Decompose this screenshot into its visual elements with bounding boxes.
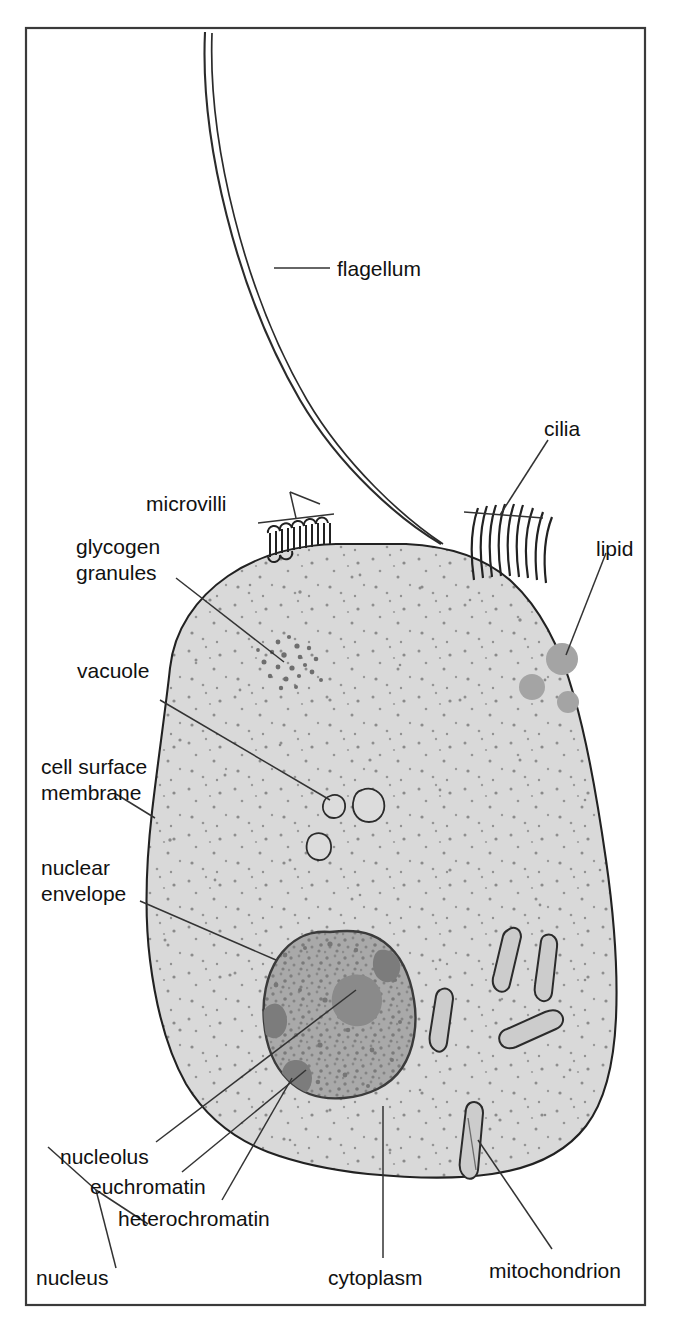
cell-body	[146, 544, 616, 1179]
label-flagellum: flagellum	[337, 257, 421, 280]
nucleolus	[332, 975, 382, 1027]
flagellum	[205, 32, 443, 544]
lipid-droplet	[519, 674, 545, 700]
label-vacuole: vacuole	[77, 659, 149, 682]
label-mitochondrion: mitochondrion	[489, 1259, 621, 1282]
label-cell-surface-membrane-line2: membrane	[41, 781, 141, 804]
label-lipid: lipid	[596, 537, 633, 560]
lipid-droplet	[546, 643, 578, 675]
label-nucleus: nucleus	[36, 1266, 108, 1289]
label-glycogen-granules-line1: glycogen	[76, 535, 160, 558]
leader-microvilli	[290, 492, 296, 518]
nucleus	[261, 931, 415, 1098]
lipid-droplet	[557, 691, 579, 713]
vacuole	[307, 833, 332, 860]
label-nuclear-envelope-line2: envelope	[41, 882, 126, 905]
label-glycogen-granules-line2: granules	[76, 561, 157, 584]
leader-lipid	[566, 553, 606, 655]
label-nucleolus: nucleolus	[60, 1145, 149, 1168]
label-nuclear-envelope-line1: nuclear	[41, 856, 110, 879]
label-euchromatin: euchromatin	[90, 1175, 206, 1198]
leader-microvilli-2	[290, 492, 320, 504]
label-microvilli: microvilli	[146, 492, 227, 515]
label-cilia: cilia	[544, 417, 580, 440]
cell-diagram-figure: flagellum cilia microvilli lipid glycoge…	[0, 0, 673, 1324]
leader-cilia	[500, 440, 548, 515]
label-cytoplasm: cytoplasm	[328, 1266, 423, 1289]
figure-caption	[30, 1308, 650, 1324]
vacuole	[353, 789, 384, 822]
label-cell-surface-membrane-line1: cell surface	[41, 755, 147, 778]
label-heterochromatin: heterochromatin	[118, 1207, 270, 1230]
